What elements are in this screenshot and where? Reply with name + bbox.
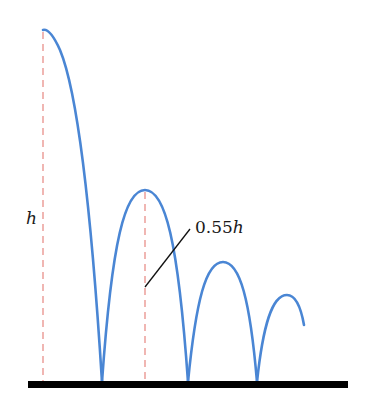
rebound-label-text: 0.55 — [195, 217, 233, 237]
bouncing-ball-diagram: h 0.55h — [0, 0, 370, 405]
rebound-label-leader — [145, 229, 190, 287]
initial-height-label: h — [26, 208, 37, 228]
trajectory-bounce-2 — [188, 262, 257, 382]
ground — [28, 381, 348, 388]
trajectory-bounce-3 — [257, 295, 304, 382]
trajectory-drop — [43, 30, 102, 382]
rebound-height-label: 0.55h — [195, 217, 244, 237]
